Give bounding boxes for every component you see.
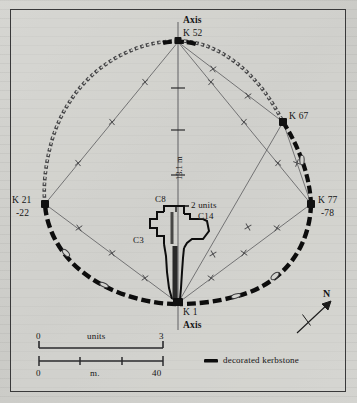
- north-label: N: [323, 288, 330, 299]
- kerbstone-sublabel-k22: -22: [16, 208, 29, 218]
- chamber-annotation-2-units: 2 units: [191, 200, 217, 210]
- units-scale-end: 3: [159, 331, 164, 341]
- survey-line-k52-k67: [178, 42, 283, 122]
- units-scale-caption: units: [87, 331, 106, 341]
- kerbstone-label-k77: K 77: [318, 195, 338, 205]
- chamber-label-c8: C8: [155, 194, 166, 204]
- site-plan-drawing: [0, 0, 357, 403]
- chamber-label-c3: C3: [133, 235, 144, 245]
- kerbstone-label-k1: K 1: [183, 307, 198, 317]
- metre-scale-caption: m.: [90, 368, 100, 378]
- kerbstone-label-k21: K 21: [12, 195, 32, 205]
- metre-scale-end: 40: [152, 368, 161, 378]
- survey-line-ticks: [72, 63, 302, 283]
- kerb-plain-stones: [44, 41, 283, 204]
- axis-dimension-label: 13.1 m: [174, 156, 184, 180]
- kerbstone-label-k52: K 52: [183, 28, 203, 38]
- legend-label: decorated kerbstone: [223, 355, 299, 365]
- units-scale-start: 0: [36, 331, 41, 341]
- metre-scale-start: 0: [36, 368, 41, 378]
- metre-scale-bar: [39, 356, 163, 366]
- north-arrow-icon: [297, 301, 331, 333]
- legend-swatch-icon: [204, 359, 218, 363]
- top-axis-label: Axis: [183, 15, 202, 25]
- kerbstone-sublabel-k78: -78: [321, 208, 334, 218]
- units-scale-bar: [39, 341, 163, 348]
- survey-line-k1-k67: [178, 122, 283, 303]
- chamber-label-c14: C14: [198, 211, 214, 221]
- bottom-axis-label: Axis: [183, 320, 202, 330]
- kerbstone-label-k67: K 67: [289, 111, 309, 121]
